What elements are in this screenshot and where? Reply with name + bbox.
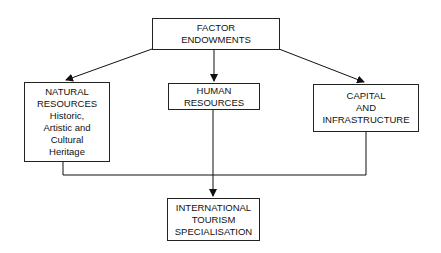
node-label: ENDOWMENTS [181,34,251,46]
node-human-resources: HUMAN RESOURCES [168,83,260,110]
node-sublabel: Historic, [50,110,84,122]
node-capital-infrastructure: CAPITAL AND INFRASTRUCTURE [313,84,419,132]
node-label: RESOURCES [37,98,97,110]
node-sublabel: Heritage [49,146,85,158]
node-international-tourism-specialisation: INTERNATIONAL TOURISM SPECIALISATION [167,198,260,241]
node-label: FACTOR [197,22,235,34]
node-label: AND [356,102,376,114]
node-label: RESOURCES [184,97,244,109]
node-natural-resources: NATURAL RESOURCES Historic, Artistic and… [24,82,110,162]
node-label: TOURISM [192,214,236,226]
arrow-factor-natural [66,49,152,80]
node-sublabel: Cultural [51,134,84,146]
node-label: INFRASTRUCTURE [322,114,409,126]
node-sublabel: Artistic and [44,122,91,134]
node-label: INTERNATIONAL [176,202,251,214]
node-label: CAPITAL [347,90,386,102]
node-factor-endowments: FACTOR ENDOWMENTS [152,18,280,50]
node-label: SPECIALISATION [175,226,252,238]
arrow-factor-capital [279,49,364,82]
node-label: NATURAL [45,86,89,98]
node-label: HUMAN [197,85,232,97]
